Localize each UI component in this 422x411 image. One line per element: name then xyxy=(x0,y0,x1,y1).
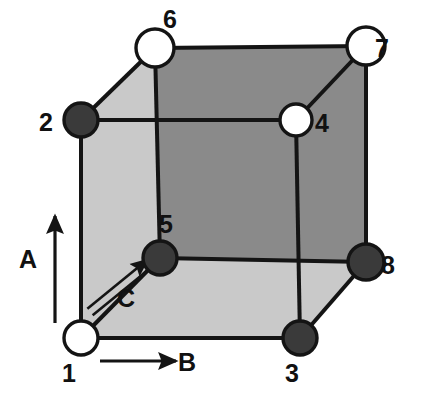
axis-label-C: C xyxy=(117,284,135,312)
node-label-4: 4 xyxy=(315,109,329,137)
node-8-filled[interactable] xyxy=(348,244,384,280)
node-3-filled[interactable] xyxy=(283,321,317,355)
node-label-8: 8 xyxy=(381,251,395,279)
node-1-open[interactable] xyxy=(64,321,98,355)
node-label-7: 7 xyxy=(375,34,389,62)
axis-label-A: A xyxy=(19,245,37,273)
axis-label-B: B xyxy=(178,348,196,376)
node-label-2: 2 xyxy=(39,108,53,136)
node-4-open[interactable] xyxy=(280,104,312,136)
node-5-filled[interactable] xyxy=(143,241,177,275)
figure-canvas: ABC 12345678 xyxy=(0,0,422,411)
cube-edge-6-7 xyxy=(155,46,366,48)
node-label-6: 6 xyxy=(163,5,177,33)
cube-diagram: ABC 12345678 xyxy=(0,0,422,411)
node-label-3: 3 xyxy=(285,359,299,387)
node-2-filled[interactable] xyxy=(64,103,98,137)
node-6-open[interactable] xyxy=(136,29,174,67)
node-label-1: 1 xyxy=(62,359,76,387)
node-label-5: 5 xyxy=(159,210,173,238)
